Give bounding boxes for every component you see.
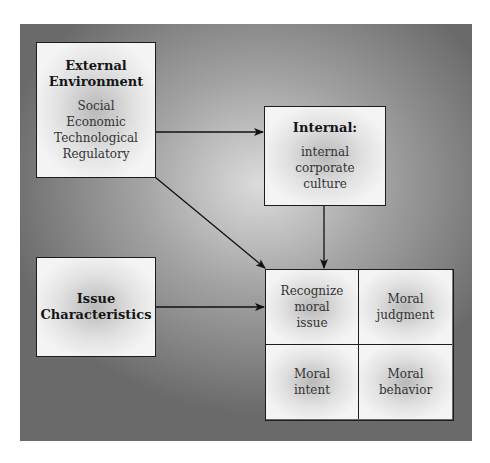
cell-text: Moral — [379, 366, 432, 382]
cell-moral-judgment: Moral judgment — [359, 270, 452, 345]
external-title-line1: External — [65, 58, 127, 74]
issue-title-line2: Characteristics — [41, 307, 152, 323]
cell-moral-intent: Moral intent — [266, 345, 359, 419]
internal-item-1: internal — [301, 144, 349, 160]
internal-box: Internal: internal corporate culture — [264, 106, 386, 206]
cell-text: Recognize — [281, 283, 344, 299]
cell-text: intent — [294, 382, 330, 398]
external-title-line2: Environment — [49, 74, 143, 90]
external-item-social: Social — [78, 98, 115, 114]
external-item-economic: Economic — [66, 114, 126, 130]
cell-text: moral — [281, 299, 344, 315]
internal-item-2: corporate — [295, 160, 354, 176]
arrow-external-to-recognize — [155, 177, 265, 268]
moral-process-grid: Recognize moral issue Moral judgment Mor… — [265, 269, 454, 421]
cell-text: Moral — [377, 291, 435, 307]
cell-text: behavior — [379, 382, 432, 398]
cell-text: judgment — [377, 307, 435, 323]
cell-moral-behavior: Moral behavior — [359, 345, 452, 419]
issue-characteristics-box: Issue Characteristics — [36, 257, 156, 357]
external-item-technological: Technological — [54, 130, 138, 146]
external-item-regulatory: Regulatory — [62, 146, 129, 162]
issue-title-line1: Issue — [77, 291, 115, 307]
cell-recognize-moral-issue: Recognize moral issue — [266, 270, 359, 345]
internal-item-3: culture — [303, 176, 347, 192]
cell-text: Moral — [294, 366, 330, 382]
external-environment-box: External Environment Social Economic Tec… — [36, 42, 156, 178]
cell-text: issue — [281, 315, 344, 331]
internal-title: Internal: — [293, 120, 357, 136]
